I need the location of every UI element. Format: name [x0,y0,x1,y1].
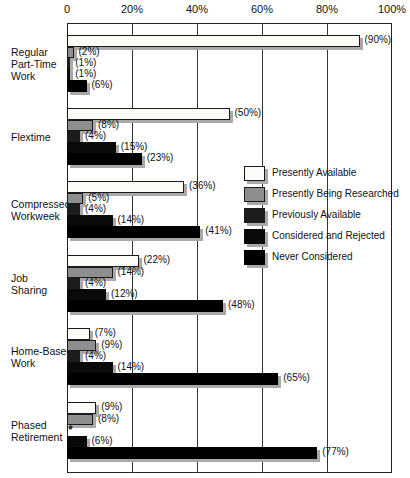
x-tick-label: 80% [316,3,338,15]
legend-swatch-icon [244,208,265,223]
value-label: (8%) [98,413,119,424]
legend-swatch-icon [244,166,265,181]
value-label: (4%) [85,277,106,288]
value-label: (14%) [118,361,145,372]
bar-previously-available [67,204,80,215]
bar-considered-and-rejected [67,69,70,80]
value-label: (41%) [205,225,232,236]
legend-label: Never Considered [272,251,353,262]
bar-presently-being-researched [67,193,83,204]
legend-label: Presently Available [272,167,356,178]
value-label: (2%) [79,46,100,57]
legend-swatch-icon [244,229,265,244]
x-tick-label: 100% [378,3,406,15]
bar-never-considered [67,447,317,459]
legend-swatch-icon [244,187,265,202]
bar-considered-and-rejected [67,142,116,153]
gridline [262,23,263,473]
bar-considered-and-rejected [67,289,106,300]
value-label: (15%) [121,141,148,152]
value-label: (4%) [85,203,106,214]
value-label: (6%) [92,435,113,446]
bar-presently-being-researched [67,47,74,58]
bar-shadow [70,61,73,72]
legend-label: Previously Available [272,209,361,220]
value-label: (5%) [88,192,109,203]
value-label: (9%) [101,339,122,350]
bar-previously-available [67,58,70,69]
value-label: (12%) [111,288,138,299]
value-label: (1%) [75,68,96,79]
value-label: (7%) [95,327,116,338]
value-label: (50%) [235,107,262,118]
bar-previously-available [67,351,80,362]
bar-never-considered [67,373,278,385]
bar-never-considered [67,300,223,312]
bar-presently-available [67,35,360,47]
x-tick-label: 0 [64,3,70,15]
value-label: (90%) [365,34,392,45]
value-label: (48%) [228,299,255,310]
bar-presently-available [67,108,230,120]
category-label: Regular Part-Time Work [11,46,57,82]
x-tick-label: 40% [186,3,208,15]
bar-considered-and-rejected [67,362,113,373]
bar-previously-available [67,131,80,142]
gridline [327,23,328,473]
value-label: (14%) [118,266,145,277]
category-label: Phased Retirement [11,419,62,443]
value-label: (23%) [147,152,174,163]
value-label: (36%) [189,180,216,191]
bar-previously-available [67,278,80,289]
gridline [132,23,133,473]
legend-swatch-icon [244,250,265,265]
value-label: (65%) [283,372,310,383]
value-label: (6%) [92,79,113,90]
gridline [197,23,198,473]
legend-label: Presently Being Researched [272,188,399,199]
bar-never-considered [67,80,87,92]
bar-presently-available [67,402,96,414]
value-label: (8%) [98,119,119,130]
value-label: (77%) [322,446,349,457]
value-label: (1%) [75,57,96,68]
bar-never-considered [67,153,142,165]
category-label: Job Sharing [11,272,47,296]
no-data-marker: * [68,423,73,437]
value-label: (4%) [85,130,106,141]
x-tick-label: 20% [121,3,143,15]
category-label: Home-Based Work [11,345,72,369]
value-label: (9%) [101,401,122,412]
bar-considered-and-rejected [67,215,113,226]
value-label: (4%) [85,350,106,361]
value-label: (14%) [118,214,145,225]
category-label: Flextime [11,131,51,143]
category-label: Compressed Workweek [11,198,71,222]
x-tick-label: 60% [251,3,273,15]
bar-considered-and-rejected [67,436,87,447]
bar-presently-available [67,328,90,340]
bar-presently-available [67,181,184,193]
legend-label: Considered and Rejected [272,230,385,241]
value-label: (22%) [144,254,171,265]
bar-never-considered [67,226,200,238]
